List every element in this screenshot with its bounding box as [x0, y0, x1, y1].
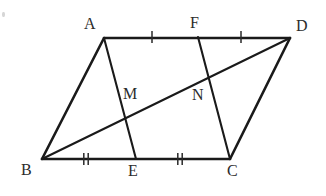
vertex-label-b: B [21, 162, 32, 178]
vertex-label-d: D [296, 18, 308, 34]
geometry-figure: A B C D E F M N [0, 0, 326, 196]
vertex-label-f: F [190, 15, 199, 31]
figure-canvas [0, 0, 326, 196]
vertex-label-m: M [123, 86, 137, 102]
vertex-label-c: C [227, 163, 238, 179]
segment-AB [42, 38, 104, 159]
stray-speck [2, 12, 5, 17]
vertex-label-n: N [192, 87, 204, 103]
segment-BD [42, 38, 290, 159]
vertex-label-e: E [128, 163, 138, 179]
vertex-label-a: A [84, 16, 96, 32]
segments-group [42, 37, 290, 159]
segment-DC [230, 38, 290, 159]
